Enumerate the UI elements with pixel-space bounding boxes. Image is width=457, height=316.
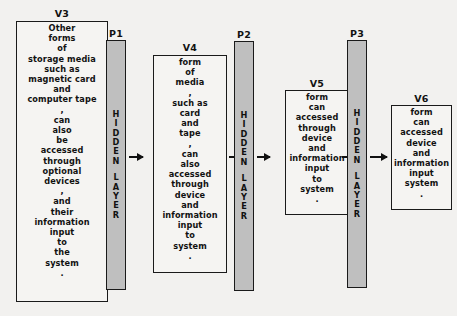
node-v3-line: to <box>18 237 106 247</box>
char: N <box>354 156 361 165</box>
node-v4-line: such as <box>155 98 225 108</box>
node-v6[interactable]: form can accessed device and information… <box>391 105 452 210</box>
node-p2-hidden-word: HIDDEN <box>241 111 248 167</box>
node-v3-line: optional <box>18 166 106 176</box>
node-p3[interactable]: HIDDEN LAYER <box>347 40 367 288</box>
node-v3-line: , <box>18 105 106 115</box>
node-v4-line: , <box>155 139 225 149</box>
node-v3-line: be <box>18 135 106 145</box>
node-v4-line: to <box>155 230 225 240</box>
node-v5-line: system <box>287 184 347 194</box>
node-v5-line: can <box>287 102 347 112</box>
node-v5-line: device <box>287 133 347 143</box>
node-v3-line: , <box>18 186 106 196</box>
node-label-p1: P1 <box>104 28 128 39</box>
node-label-p3: P3 <box>345 28 369 39</box>
node-label-v3: V3 <box>16 8 108 19</box>
node-v3-line: devices <box>18 176 106 186</box>
node-v4-line: input <box>155 220 225 230</box>
node-v4-line: can <box>155 149 225 159</box>
node-p3-hidden-word: HIDDEN <box>354 109 361 165</box>
node-v4[interactable]: form of media , such as card and tape , … <box>153 55 227 273</box>
node-v6-line: . <box>393 189 450 199</box>
node-v5-line: form <box>287 92 347 102</box>
node-v6-line: and <box>393 148 450 158</box>
node-label-p2: P2 <box>232 29 256 40</box>
node-label-v4: V4 <box>153 42 227 53</box>
node-v3-line: their <box>18 207 106 217</box>
node-v6-line: can <box>393 117 450 127</box>
node-label-v6: V6 <box>391 93 452 104</box>
node-v5-line: and <box>287 143 347 153</box>
node-v3-line: storage media <box>18 54 106 64</box>
node-v6-line: system <box>393 178 450 188</box>
node-p1[interactable]: HIDDEN LAYER <box>106 40 126 290</box>
node-v5-line: to <box>287 174 347 184</box>
node-v3-line: the <box>18 247 106 257</box>
node-v3[interactable]: Other forms of storage media such as mag… <box>16 21 108 302</box>
node-v5-line: accessed <box>287 112 347 122</box>
node-v3-line: of <box>18 43 106 53</box>
node-v4-line: system <box>155 241 225 251</box>
node-v3-line: and <box>18 84 106 94</box>
node-p2[interactable]: HIDDEN LAYER <box>234 41 254 291</box>
node-v4-line: form <box>155 57 225 67</box>
node-v5-line: . <box>287 194 347 204</box>
node-v4-line: of <box>155 67 225 77</box>
node-v4-line: tape <box>155 128 225 138</box>
node-v3-line: can <box>18 115 106 125</box>
node-v3-line: accessed <box>18 145 106 155</box>
node-p2-layer-word: LAYER <box>241 174 247 221</box>
node-v3-line: and <box>18 196 106 206</box>
char: R <box>113 211 119 220</box>
arrow-p2-to-v5 <box>257 156 270 158</box>
node-v3-line: . <box>18 268 106 278</box>
node-v5-line: input <box>287 163 347 173</box>
node-v3-line: information <box>18 217 106 227</box>
node-v5-line: through <box>287 123 347 133</box>
node-v3-line: through <box>18 156 106 166</box>
node-v3-text: Other forms of storage media such as mag… <box>17 22 107 278</box>
arrow-p1-to-v4 <box>129 156 143 158</box>
node-v4-line: , <box>155 88 225 98</box>
node-v3-line: Other <box>18 23 106 33</box>
node-v5-line: information <box>287 153 347 163</box>
char: N <box>113 157 120 166</box>
node-v4-line: and <box>155 200 225 210</box>
node-label-v5: V5 <box>285 78 349 89</box>
node-v3-line: magnetic card <box>18 74 106 84</box>
node-p3-layer-word: LAYER <box>354 172 360 219</box>
node-v6-line: device <box>393 138 450 148</box>
node-v4-line: card <box>155 108 225 118</box>
node-v6-line: input <box>393 168 450 178</box>
node-v5-text: form can accessed through device and inf… <box>286 91 348 204</box>
node-v3-line: input <box>18 227 106 237</box>
node-v4-line: media <box>155 77 225 87</box>
node-v4-line: also <box>155 159 225 169</box>
diagram-canvas: V3 Other forms of storage media such as … <box>0 0 457 316</box>
node-v3-line: such as <box>18 64 106 74</box>
node-v4-line: . <box>155 251 225 261</box>
node-v4-line: through <box>155 179 225 189</box>
node-p1-hidden-word: HIDDEN <box>113 110 120 166</box>
node-v6-text: form can accessed device and information… <box>392 106 451 199</box>
node-v4-line: device <box>155 190 225 200</box>
node-v5[interactable]: form can accessed through device and inf… <box>285 90 349 215</box>
node-v6-line: accessed <box>393 127 450 137</box>
node-v3-line: also <box>18 125 106 135</box>
arrow-p3-to-v6 <box>370 156 387 158</box>
node-v6-line: information <box>393 158 450 168</box>
node-p1-layer-word: LAYER <box>113 173 119 220</box>
node-v3-line: system <box>18 258 106 268</box>
node-v4-line: and <box>155 118 225 128</box>
node-v6-line: form <box>393 107 450 117</box>
char: R <box>241 212 247 221</box>
node-v4-text: form of media , such as card and tape , … <box>154 56 226 261</box>
char: N <box>241 158 248 167</box>
node-v4-line: information <box>155 210 225 220</box>
char: R <box>354 210 360 219</box>
node-v3-line: forms <box>18 33 106 43</box>
node-v4-line: accessed <box>155 169 225 179</box>
node-v3-line: computer tape <box>18 94 106 104</box>
